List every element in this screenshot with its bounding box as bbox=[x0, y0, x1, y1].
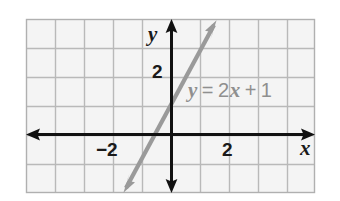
equation-plus: + bbox=[245, 79, 257, 101]
x-tick-label-2: 2 bbox=[222, 140, 233, 159]
y-axis-label: y bbox=[148, 24, 157, 45]
equation-equals: = bbox=[202, 79, 214, 101]
y-tick-label-2: 2 bbox=[152, 62, 163, 81]
equation-variable: x bbox=[230, 78, 241, 102]
x-tick-label-negative-2: −2 bbox=[96, 140, 118, 159]
coordinate-plane bbox=[0, 0, 340, 201]
equation-lhs: y bbox=[188, 78, 198, 102]
graph-figure: y x 2 −2 2 y=2x+1 bbox=[0, 0, 340, 201]
equation-annotation: y=2x+1 bbox=[188, 80, 272, 101]
equation-coefficient: 2 bbox=[218, 79, 230, 101]
x-axis-label: x bbox=[300, 138, 311, 159]
equation-constant: 1 bbox=[261, 79, 273, 101]
